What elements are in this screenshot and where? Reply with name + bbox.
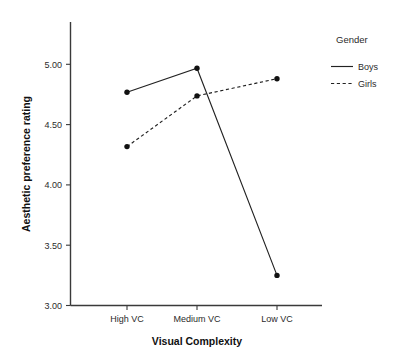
series-boys-point-low-vc (274, 273, 279, 278)
y-tick-label-4.00: 4.00 (44, 180, 62, 190)
y-tick-label-3.00: 3.00 (44, 301, 62, 311)
legend-label-girls: Girls (358, 79, 377, 89)
x-axis-title: Visual Complexity (152, 335, 242, 347)
x-tick-label-medium-vc: Medium VC (173, 314, 221, 324)
series-girls-point-medium-vc (194, 93, 199, 98)
y-tick-label-5.00: 5.00 (44, 60, 62, 70)
series-girls-point-low-vc (274, 76, 279, 81)
series-girls-point-high-vc (124, 144, 129, 149)
legend-label-boys: Boys (358, 62, 379, 72)
y-axis-title: Aesthetic preference rating (20, 96, 32, 232)
x-tick-label-low-vc: Low VC (261, 314, 293, 324)
chart-figure: 3.00 3.50 4.00 4.50 5.00 High VC Medium … (0, 0, 398, 361)
series-boys-point-high-vc (124, 90, 129, 95)
x-tick-label-high-vc: High VC (110, 314, 144, 324)
y-tick-label-4.50: 4.50 (44, 120, 62, 130)
series-boys-point-medium-vc (194, 66, 199, 71)
line-chart-canvas: 3.00 3.50 4.00 4.50 5.00 High VC Medium … (0, 0, 398, 361)
y-tick-label-3.50: 3.50 (44, 241, 62, 251)
legend-title: Gender (336, 34, 368, 45)
